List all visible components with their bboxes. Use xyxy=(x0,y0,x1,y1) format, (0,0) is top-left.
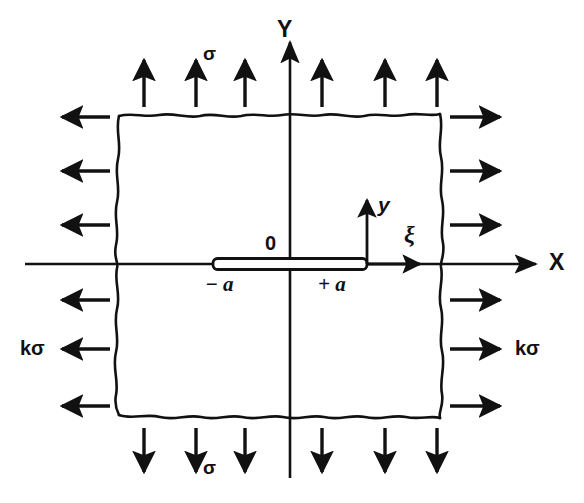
y-axis-label: Y xyxy=(277,18,292,41)
crack-diagram-figure: Y X 0 y ξ − a + a σ σ kσ kσ xyxy=(0,0,584,503)
right-stress-arrows xyxy=(450,117,500,406)
left-stress-arrows xyxy=(62,117,110,406)
crack-slit xyxy=(213,259,367,270)
sigma-bottom-label: σ xyxy=(203,458,216,477)
x-axis-label: X xyxy=(549,251,564,274)
k-sigma-right-label: kσ xyxy=(515,338,540,358)
local-y-axis-label: y xyxy=(378,194,390,215)
diagram-canvas xyxy=(0,0,584,503)
xi-axis-label: ξ xyxy=(404,222,415,246)
crack-left-tip-label: − a xyxy=(205,274,233,295)
k-sigma-left-label: kσ xyxy=(20,338,45,358)
origin-label: 0 xyxy=(265,233,276,253)
sigma-top-label: σ xyxy=(203,44,216,63)
crack-right-tip-label: + a xyxy=(318,274,346,295)
